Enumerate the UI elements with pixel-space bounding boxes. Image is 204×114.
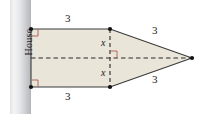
label-upper-half-height: x (101, 38, 105, 48)
geometry-figure: House 3 3 3 3 x x (0, 0, 204, 114)
vertex-dot-apex (190, 56, 194, 60)
label-lower-half-height: x (101, 68, 105, 78)
vertex-dot-bottom-left (29, 85, 33, 89)
label-upper-slant: 3 (152, 25, 158, 36)
label-lower-slant: 3 (152, 74, 158, 85)
label-bottom-side: 3 (65, 91, 71, 102)
vertex-dot-bottom-right (108, 85, 112, 89)
label-top-side: 3 (65, 13, 71, 24)
house-label: House (23, 20, 37, 64)
vertex-dot-top-right (108, 27, 112, 31)
